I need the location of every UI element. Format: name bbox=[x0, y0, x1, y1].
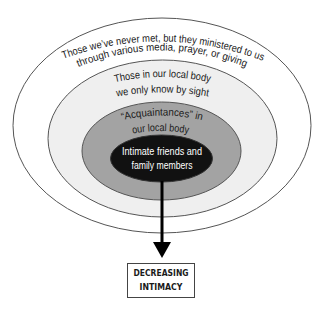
inner-ring-label-line-2: family members bbox=[132, 159, 193, 171]
inner-ring-label-line-1: Intimate friends and bbox=[122, 145, 202, 157]
decreasing-intimacy-label-line-1: DECREASING bbox=[134, 268, 189, 278]
intimacy-circles-diagram: Those we’ve never met, but they minister… bbox=[0, 0, 324, 309]
decreasing-intimacy-label-line-2: INTIMACY bbox=[140, 282, 184, 292]
